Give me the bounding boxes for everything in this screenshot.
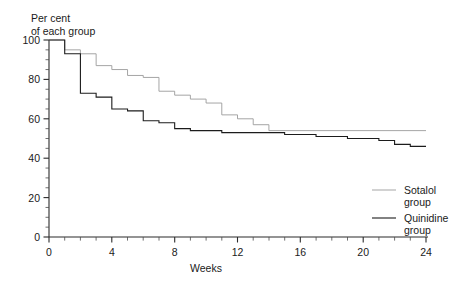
legend: Sotalol group Quinidine group: [372, 184, 449, 237]
y-tick-label-40: 40: [28, 152, 40, 164]
x-axis-title: Weeks: [190, 262, 222, 274]
x-tick-label-0: 0: [46, 246, 52, 258]
y-axis-ticks: [44, 40, 50, 237]
x-tick-label-16: 16: [294, 246, 306, 258]
x-tick-label-8: 8: [172, 246, 178, 258]
y-tick-label-80: 80: [28, 73, 40, 85]
legend-label-quinidine-line-2: group: [404, 224, 431, 236]
y-tick-label-100: 100: [22, 34, 40, 46]
legend-label-sotalol-line-2: group: [404, 196, 431, 208]
x-tick-label-12: 12: [232, 246, 244, 258]
chart-title-line-2: of each group: [31, 25, 95, 37]
legend-label-quinidine-line-1: Quinidine: [404, 212, 449, 224]
y-tick-label-0: 0: [34, 231, 40, 243]
x-axis-ticks: [49, 237, 426, 243]
y-tick-label-20: 20: [28, 192, 40, 204]
series-line-sotalol: [49, 40, 426, 131]
x-tick-label-4: 4: [109, 246, 115, 258]
x-tick-label-24: 24: [420, 246, 432, 258]
kaplan-meier-chart: Per cent of each group: [0, 0, 461, 282]
y-tick-label-60: 60: [28, 113, 40, 125]
x-tick-label-20: 20: [357, 246, 369, 258]
chart-title-line-1: Per cent: [31, 12, 70, 24]
chart-container: Per cent of each group: [0, 0, 461, 282]
legend-label-sotalol-line-1: Sotalol: [404, 184, 436, 196]
